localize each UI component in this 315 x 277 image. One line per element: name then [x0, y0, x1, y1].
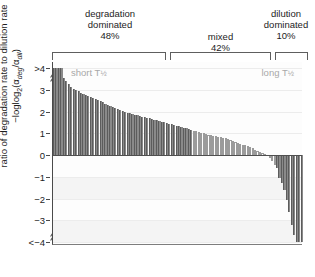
y-axis-tick-label: 3: [40, 84, 45, 95]
y-axis-tick: [46, 220, 50, 221]
y-axis-tick-label: −2: [34, 193, 45, 204]
category-header-dilution: dilution dominated 10%: [258, 8, 314, 42]
category-percent: 48%: [52, 30, 168, 41]
category-label-line1: degradation: [85, 8, 135, 19]
zero-baseline: [53, 155, 302, 156]
category-header-degradation: degradation dominated 48%: [52, 8, 168, 42]
y-axis-tick-label: −1: [34, 171, 45, 182]
y-axis-tick: [46, 112, 50, 113]
y-axis-tick: [46, 155, 50, 156]
y-axis-tick-label: 0: [40, 150, 45, 161]
annotation-short-halflife: short T½: [71, 67, 107, 78]
y-axis-tick-label: 2: [40, 106, 45, 117]
y-axis-tick: [46, 177, 50, 178]
y-axis-tick-label: −3: [34, 215, 45, 226]
y-axis-tick-labels: >43210−1−2−3<−4: [0, 62, 50, 245]
bar: [301, 155, 303, 242]
category-label-line1: mixed: [208, 31, 233, 42]
category-percent: 10%: [258, 30, 314, 41]
y-axis-tick-label: <−4: [29, 237, 45, 248]
y-axis-tick-label: 1: [40, 128, 45, 139]
y-axis-tick: [46, 199, 50, 200]
y-axis-tick: [46, 242, 50, 243]
annotation-long-halflife: long T½: [262, 67, 295, 78]
y-axis-tick: [46, 133, 50, 134]
group-bracket-dilution: [275, 52, 308, 60]
figure-root: degradation dominated 48% mixed 42% dilu…: [0, 0, 315, 277]
y-axis-tick-label: >4: [34, 63, 45, 74]
category-label-line2: dominated: [264, 19, 308, 30]
category-label-line1: dilution: [271, 8, 301, 19]
group-bracket-mixed: [170, 52, 271, 60]
bar-series: [53, 62, 302, 244]
group-bracket-degradation: [52, 52, 166, 60]
y-axis-tick: [46, 90, 50, 91]
category-label-line2: dominated: [88, 19, 132, 30]
y-axis-tick: [46, 68, 50, 69]
plot-area: short T½ long T½: [52, 62, 302, 245]
